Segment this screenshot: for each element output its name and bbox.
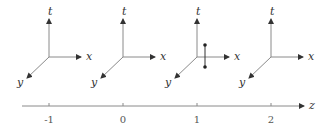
- y-label: y: [90, 76, 98, 89]
- y-label: y: [16, 76, 24, 89]
- tick-label: -1: [44, 114, 54, 125]
- frame-z-minus-1: t x y: [16, 5, 93, 89]
- t-label: t: [270, 5, 275, 18]
- y-label: y: [164, 76, 172, 89]
- x-label: x: [160, 50, 167, 63]
- y-axis: [175, 57, 197, 78]
- tick-label: 2: [268, 114, 274, 125]
- z-label: z: [308, 99, 315, 112]
- t-label: t: [196, 5, 201, 18]
- event-point-top: [203, 43, 207, 47]
- y-axis: [27, 57, 49, 78]
- frame-z-1: t x y: [164, 5, 241, 89]
- event-point-bottom: [203, 65, 207, 69]
- y-axis: [101, 57, 123, 78]
- t-label: t: [122, 5, 127, 18]
- frame-z-2: t x y: [238, 5, 315, 89]
- tick-label: 0: [120, 114, 126, 125]
- y-axis: [249, 57, 271, 78]
- tick-label: 1: [194, 114, 200, 125]
- x-label: x: [234, 50, 241, 63]
- frame-z-0: t x y: [90, 5, 167, 89]
- x-label: x: [86, 50, 93, 63]
- y-label: y: [238, 76, 246, 89]
- t-label: t: [48, 5, 53, 18]
- z-axis: z -1 0 1 2: [22, 99, 315, 125]
- diagram-canvas: t x y t x y t x y t x y z: [0, 0, 329, 135]
- x-label: x: [308, 50, 315, 63]
